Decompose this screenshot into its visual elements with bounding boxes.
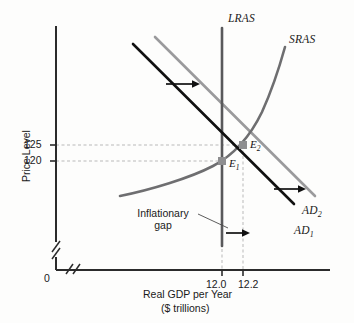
x-tick-label-12-2: 12.2 <box>238 278 258 290</box>
sras-label: SRAS <box>289 33 315 46</box>
inflationary-gap-arrow <box>226 229 250 237</box>
y-axis-title: Price Level <box>20 130 32 182</box>
x-axis-title: Real GDP per Year <box>143 288 232 300</box>
equilibrium-marker-e2 <box>239 141 247 149</box>
inflationary-gap-leader <box>198 214 228 228</box>
equilibrium-label-e2: E2 <box>250 138 260 154</box>
inflationary-gap-line1: Inflationary <box>126 207 200 219</box>
axes <box>50 26 330 276</box>
inflationary-gap-line2: gap <box>126 219 200 231</box>
equilibrium-label-e1: E1 <box>229 157 239 173</box>
ad2-label: AD2 <box>302 204 322 219</box>
aggregate-supply-demand-chart: LRAS SRAS AD2 AD1 E1 E2 125 120 12.0 12.… <box>0 0 354 323</box>
inflationary-gap-annotation: Inflationary gap <box>126 207 200 231</box>
ad1-label: AD1 <box>294 224 314 239</box>
x-axis-subtitle: ($ trillions) <box>161 302 209 314</box>
ad1-curve <box>133 44 294 204</box>
equilibrium-marker-e1 <box>218 157 226 165</box>
chart-canvas <box>0 0 354 323</box>
sras-curve <box>120 47 285 196</box>
lras-label: LRAS <box>228 12 255 25</box>
origin-label: 0 <box>44 272 50 284</box>
ad-shift-arrow-lower <box>274 185 306 193</box>
